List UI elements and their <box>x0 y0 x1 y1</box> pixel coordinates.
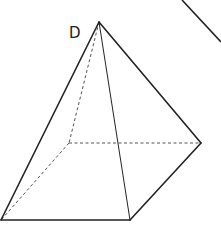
apex-label-d: D <box>69 26 81 41</box>
visible-edges <box>1 22 201 220</box>
edge-apex-right <box>99 22 201 143</box>
hidden-edges <box>1 22 201 220</box>
edge-front-right-right <box>130 143 201 220</box>
edge-apex-front-left <box>1 22 99 220</box>
pyramid-diagram <box>0 0 221 227</box>
edge-apex-front-right <box>99 22 130 220</box>
partial-line <box>182 0 221 42</box>
hidden-edge-back-left-front-left <box>1 143 69 220</box>
